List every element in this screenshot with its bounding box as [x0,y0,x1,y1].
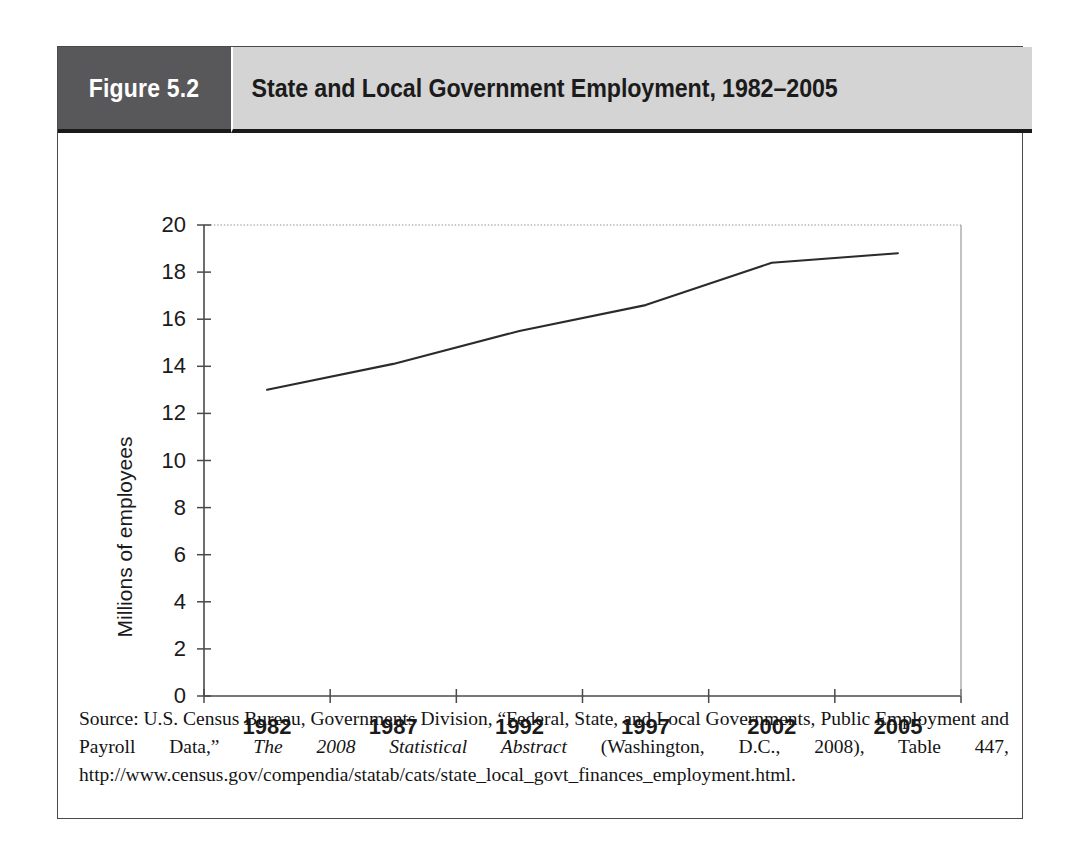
y-tick-label: 10 [162,448,186,473]
y-tick-label: 8 [174,495,186,520]
figure-header: Figure 5.2 State and Local Government Em… [58,47,1032,133]
y-tick-label: 16 [162,306,186,331]
figure-title-box: State and Local Government Employment, 1… [231,47,1032,133]
data-series-line [267,253,898,389]
y-tick-label: 6 [174,542,186,567]
y-tick-label: 12 [162,400,186,425]
source-note: Source: U.S. Census Bureau, Governments … [79,705,1009,789]
y-tick-label: 14 [162,353,186,378]
chart-area: Millions of employees 02468101214161820 … [58,137,1022,737]
figure-number-label: Figure 5.2 [89,74,199,103]
figure-title: State and Local Government Employment, 1… [233,74,838,103]
y-tick-label: 4 [174,589,186,614]
y-tick-label: 18 [162,259,186,284]
figure-number-box: Figure 5.2 [58,47,231,133]
y-tick-label: 2 [174,636,186,661]
y-axis-title: Millions of employees [113,437,136,638]
line-chart: Millions of employees 02468101214161820 … [58,137,1022,737]
source-italic-title: The 2008 Statistical Abstract [253,736,567,757]
y-axis-tick-labels: 02468101214161820 [162,212,186,708]
y-tick-label: 20 [162,212,186,237]
figure-frame: Figure 5.2 State and Local Government Em… [57,46,1023,819]
